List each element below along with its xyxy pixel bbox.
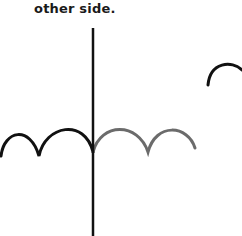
original-arcs (1, 129, 93, 156)
reflection-diagram (0, 0, 242, 236)
reflected-arcs (93, 130, 195, 153)
lone-arc (208, 64, 242, 85)
